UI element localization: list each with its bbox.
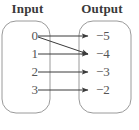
input-element-3: 3: [24, 82, 38, 98]
output-element-minus-5: −5: [96, 28, 118, 44]
mapping-diagram: Input Output 0 1 2 3 −5 −4 −3 −2: [0, 0, 139, 130]
input-element-2: 2: [24, 64, 38, 80]
input-element-1: 1: [24, 46, 38, 62]
output-element-minus-3: −3: [96, 64, 118, 80]
mapping-arrow-1: [38, 37, 88, 54]
input-element-0: 0: [24, 28, 38, 44]
diagram-shapes-layer: [0, 0, 139, 130]
output-element-minus-4: −4: [96, 46, 118, 62]
output-element-minus-2: −2: [96, 82, 118, 98]
mapping-arrows: [38, 36, 88, 90]
